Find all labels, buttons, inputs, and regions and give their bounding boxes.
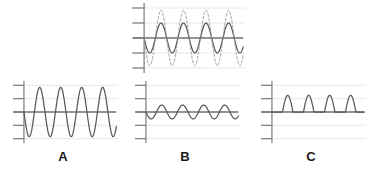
panel-b-plot	[130, 80, 240, 144]
panel-reference	[127, 2, 245, 74]
curve-half-wave-rectified-sine	[272, 95, 364, 112]
panel-label-b: B	[130, 150, 240, 163]
panel-c	[256, 80, 366, 144]
waveform-comparison-figure: A B C	[0, 0, 367, 175]
panel-c-plot	[256, 80, 366, 144]
panel-label-c: C	[256, 150, 366, 163]
panel-reference-plot	[127, 2, 245, 74]
panel-a	[8, 80, 118, 144]
panel-a-plot	[8, 80, 118, 144]
panel-b	[130, 80, 240, 144]
panel-label-a: A	[8, 150, 118, 163]
